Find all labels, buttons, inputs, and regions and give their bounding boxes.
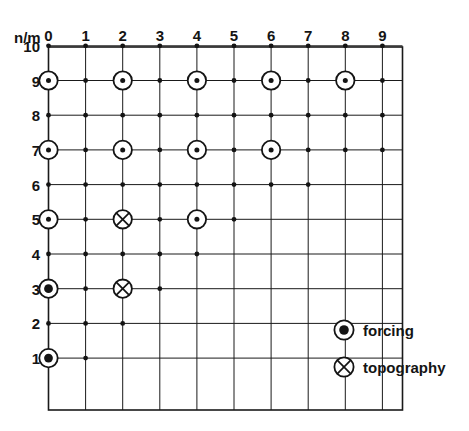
lattice-node-dot — [46, 113, 51, 118]
lattice-node-dot — [83, 43, 88, 48]
lattice-node-dot — [83, 217, 88, 222]
data-marker-forcing[interactable] — [39, 349, 57, 367]
lattice-node-dot — [157, 113, 162, 118]
lattice-node-dot — [83, 113, 88, 118]
lattice-node-dot — [306, 78, 311, 83]
lattice-node-dot — [232, 113, 237, 118]
marker-core — [46, 147, 51, 152]
x-tick-label-9: 9 — [378, 28, 386, 43]
x-tick-label-4: 4 — [193, 28, 201, 43]
x-tick-label-3: 3 — [156, 28, 164, 43]
lattice-node-dot — [157, 78, 162, 83]
y-tick-label-5: 5 — [8, 212, 40, 227]
lattice-node-dot — [83, 356, 88, 361]
x-tick-label-1: 1 — [81, 28, 89, 43]
lattice-node-dot — [232, 43, 237, 48]
x-tick-label-6: 6 — [267, 28, 275, 43]
data-marker-forcing[interactable] — [188, 141, 206, 159]
marker-core — [269, 78, 274, 83]
lattice-node-dot — [83, 252, 88, 257]
plot-frame — [49, 47, 403, 410]
data-marker-forcing[interactable] — [262, 141, 280, 159]
lattice-node-dot — [157, 286, 162, 291]
y-tick-label-7: 7 — [8, 142, 40, 157]
lattice-node-dot — [46, 252, 51, 257]
legend-label-topography: topography — [363, 360, 446, 375]
lattice-node-dot — [195, 43, 200, 48]
lattice-node-dot — [380, 148, 385, 153]
marker-core — [194, 217, 199, 222]
lattice-node-dot — [120, 321, 125, 326]
y-tick-label-2: 2 — [8, 316, 40, 331]
lattice-node-dot — [120, 113, 125, 118]
x-tick-label-0: 0 — [44, 28, 52, 43]
marker-core — [46, 217, 51, 222]
lattice-node-dot — [195, 182, 200, 187]
data-marker-forcing[interactable] — [336, 71, 354, 89]
lattice-node-dot — [269, 113, 274, 118]
x-tick-label-7: 7 — [304, 28, 312, 43]
lattice-node-dot — [306, 182, 311, 187]
data-marker-forcing[interactable] — [39, 210, 57, 228]
lattice-node-dot — [83, 286, 88, 291]
legend-symbol-forcing — [334, 320, 353, 339]
data-marker-forcing[interactable] — [39, 71, 57, 89]
data-marker-forcing[interactable] — [39, 141, 57, 159]
lattice-node-dot — [46, 321, 51, 326]
y-tick-label-8: 8 — [8, 108, 40, 123]
lattice-node-dot — [120, 43, 125, 48]
lattice-node-dot — [232, 148, 237, 153]
lattice-node-dot — [232, 217, 237, 222]
lattice-node-dot — [83, 182, 88, 187]
lattice-node-dot — [157, 182, 162, 187]
data-marker-forcing[interactable] — [39, 280, 57, 298]
marker-core — [194, 78, 199, 83]
data-marker-topography[interactable] — [114, 280, 132, 298]
y-tick-label-3: 3 — [8, 281, 40, 296]
lattice-node-dot — [232, 78, 237, 83]
lattice-node-dot — [195, 113, 200, 118]
lattice-node-dot — [157, 148, 162, 153]
data-marker-forcing[interactable] — [114, 141, 132, 159]
marker-core — [269, 147, 274, 152]
x-tick-label-2: 2 — [119, 28, 127, 43]
data-marker-forcing[interactable] — [188, 210, 206, 228]
lattice-node-dot — [269, 43, 274, 48]
x-tick-label-5: 5 — [230, 28, 238, 43]
legend-label-forcing: forcing — [363, 323, 414, 338]
data-marker-forcing[interactable] — [114, 71, 132, 89]
lattice-node-dot — [83, 78, 88, 83]
y-tick-label-6: 6 — [8, 177, 40, 192]
legend-symbol-topography — [334, 357, 353, 376]
lattice-node-dot — [195, 252, 200, 257]
lattice-node-dot — [157, 252, 162, 257]
y-tick-label-9: 9 — [8, 73, 40, 88]
marker-core — [194, 147, 199, 152]
marker-core — [44, 284, 53, 293]
lattice-node-dot — [46, 43, 51, 48]
marker-core — [120, 78, 125, 83]
lattice-node-dot — [269, 182, 274, 187]
lattice-node-dot — [83, 321, 88, 326]
y-tick-label-1: 1 — [8, 351, 40, 366]
lattice-node-dot — [120, 182, 125, 187]
lattice-node-dot — [157, 43, 162, 48]
lattice-node-dot — [380, 78, 385, 83]
y-tick-label-4: 4 — [8, 247, 40, 262]
data-marker-topography[interactable] — [114, 210, 132, 228]
marker-core — [339, 325, 349, 335]
lattice-node-dot — [83, 148, 88, 153]
lattice-node-dot — [232, 182, 237, 187]
lattice-node-dot — [46, 182, 51, 187]
data-marker-forcing[interactable] — [262, 71, 280, 89]
lattice-node-dot — [306, 148, 311, 153]
data-marker-forcing[interactable] — [188, 71, 206, 89]
lattice-node-dot — [380, 113, 385, 118]
x-tick-label-8: 8 — [341, 28, 349, 43]
axis-corner-label: n/m — [14, 30, 41, 45]
marker-core — [343, 78, 348, 83]
marker-core — [44, 354, 53, 363]
lattice-node-dot — [343, 43, 348, 48]
lattice-node-dot — [306, 43, 311, 48]
lattice-figure: 0123456789 10987654321 n/m forcingtopogr… — [0, 0, 469, 431]
